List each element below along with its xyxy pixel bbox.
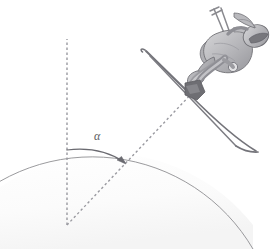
angle-label-alpha: α: [94, 130, 100, 142]
skier-figure: [185, 13, 272, 100]
skier-cap-peak: [234, 13, 255, 28]
spherical-hill: [0, 154, 253, 249]
physics-diagram-skier-on-sphere: α: [0, 0, 279, 249]
front-ski-lower: [190, 95, 256, 151]
rear-ski-tip: [141, 49, 145, 52]
diagram-canvas: [0, 0, 279, 249]
hill-fill: [0, 154, 253, 249]
rear-ski-upper: [146, 51, 188, 92]
